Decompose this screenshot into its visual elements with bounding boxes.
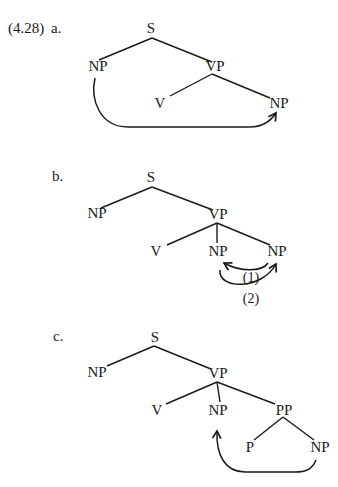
arrow-1: [224, 263, 268, 270]
edge-vp-v: [170, 74, 212, 96]
edge-vp-pp: [217, 382, 275, 404]
node-s: S: [151, 329, 159, 345]
tree-a-label: a.: [51, 20, 61, 36]
node-vp: VP: [205, 58, 224, 74]
movement-arrow: [94, 78, 276, 127]
node-np-2: NP: [267, 243, 286, 259]
arrow-2-label: (2): [243, 291, 260, 307]
example-number: (4.28): [8, 20, 44, 37]
node-np-obj: NP: [208, 402, 227, 418]
edge-s-vp: [154, 346, 211, 369]
node-np-1: NP: [208, 243, 227, 259]
node-s: S: [147, 20, 155, 36]
edge-vp-np: [212, 74, 270, 98]
node-s: S: [147, 169, 155, 185]
node-np-pobj: NP: [310, 439, 329, 455]
tree-c: c. S NP VP V NP PP P NP: [53, 328, 330, 472]
node-pp: PP: [276, 402, 293, 418]
edge-pp-p: [254, 417, 283, 440]
node-p: P: [246, 439, 254, 455]
syntax-tree-figure: (4.28) a. S NP VP V NP b. S NP VP V NP N…: [0, 0, 338, 487]
edge-vp-np: [217, 382, 220, 402]
tree-c-label: c.: [53, 328, 63, 344]
node-vp: VP: [208, 365, 227, 381]
node-v: V: [151, 243, 162, 259]
movement-arrow: [217, 431, 316, 472]
tree-b-label: b.: [52, 168, 63, 184]
edge-s-np: [101, 187, 152, 208]
edge-vp-np2: [217, 223, 270, 245]
edge-vp-v: [167, 223, 217, 245]
edge-s-vp: [152, 38, 212, 62]
node-np-subj: NP: [87, 205, 106, 221]
edge-s-np: [99, 38, 152, 60]
edge-vp-v: [166, 382, 217, 404]
edge-s-np: [107, 346, 154, 366]
edge-s-vp: [152, 187, 213, 210]
node-v: V: [152, 402, 163, 418]
tree-a: (4.28) a. S NP VP V NP: [8, 20, 289, 127]
node-vp: VP: [208, 206, 227, 222]
node-np-subj: NP: [88, 58, 107, 74]
tree-b: b. S NP VP V NP NP (1) (2): [52, 168, 287, 307]
node-v: V: [155, 95, 166, 111]
edge-pp-np: [283, 417, 314, 440]
node-np-subj: NP: [87, 364, 106, 380]
node-np-obj: NP: [269, 95, 288, 111]
